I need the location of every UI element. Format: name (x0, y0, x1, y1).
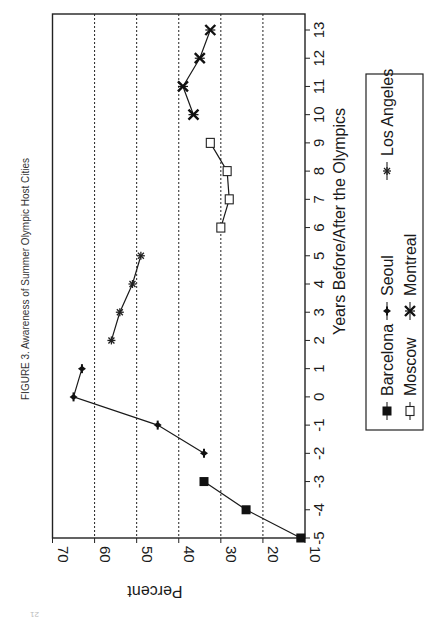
bowtie-x-marker (188, 110, 198, 120)
y-axis-ticks: 10203040506070 (53, 538, 325, 563)
y-tick-label: 30 (223, 546, 240, 563)
y-tick-label: 70 (55, 546, 72, 563)
legend-item-moscow: Moscow (402, 337, 419, 420)
plot-area: -5-4-3-2-1012345678910111213 10203040506… (53, 14, 328, 563)
filled-diamond-marker (200, 449, 208, 458)
asterisk-marker (128, 280, 136, 288)
x-tick-label: -3 (310, 475, 327, 488)
filled-diamond-marker (70, 392, 78, 401)
series-layer (70, 25, 306, 543)
legend: BarcelonaSeoulLos AngelesMoscowMontreal (366, 69, 423, 430)
figure-title: FIGURE 3. Awareness of Summer Olympic Ho… (20, 158, 31, 400)
open-square-marker (217, 223, 225, 232)
x-tick-label: -5 (310, 531, 327, 544)
x-tick-label: 2 (310, 336, 327, 344)
y-tick-label: 60 (97, 546, 114, 563)
bowtie-x-marker (178, 81, 188, 91)
gridlines (95, 14, 263, 538)
x-tick-label: 7 (310, 195, 327, 203)
asterisk-marker (107, 336, 115, 344)
x-tick-label: -2 (310, 447, 327, 460)
open-square-marker (406, 407, 414, 416)
asterisk-marker (116, 308, 124, 316)
legend-label: Moscow (402, 337, 419, 396)
legend-label: Seoul (379, 255, 396, 296)
x-tick-label: 5 (310, 252, 327, 260)
legend-label: Barcelona (379, 324, 396, 396)
filled-square-marker (242, 505, 251, 514)
x-tick-label: 3 (310, 308, 327, 316)
filled-diamond-marker (78, 364, 86, 373)
filled-diamond-marker (383, 307, 391, 316)
series-montreal (178, 25, 215, 120)
legend-item-barcelona: Barcelona (379, 324, 396, 420)
filled-diamond-marker (154, 421, 162, 430)
open-square-marker (225, 195, 233, 204)
filled-square-marker (296, 534, 305, 543)
legend-items: BarcelonaSeoulLos AngelesMoscowMontreal (379, 69, 419, 420)
x-tick-label: -4 (310, 503, 327, 516)
filled-square-marker (200, 477, 209, 486)
filled-square-marker (383, 407, 392, 416)
asterisk-marker (383, 167, 391, 175)
series-barcelona (200, 477, 306, 542)
legend-item-montreal: Montreal (402, 234, 419, 320)
asterisk-marker (137, 252, 145, 260)
series-los-angeles (107, 252, 144, 345)
x-tick-label: 8 (310, 167, 327, 175)
x-axis-label: Years Before/After the Olympics (331, 108, 348, 335)
x-tick-label: 0 (310, 393, 327, 401)
legend-label: Los Angeles (379, 69, 396, 156)
y-tick-label: 50 (139, 546, 156, 563)
bowtie-x-marker (205, 25, 215, 35)
legend-label: Montreal (402, 234, 419, 296)
y-tick-label: 10 (307, 546, 324, 563)
x-tick-label: -1 (310, 418, 327, 431)
x-tick-label: 4 (310, 280, 327, 288)
x-tick-label: 9 (310, 139, 327, 147)
page-mark: 21 (30, 610, 39, 619)
x-tick-label: 11 (310, 79, 327, 95)
legend-item-seoul: Seoul (379, 255, 396, 320)
y-tick-label: 20 (265, 546, 282, 563)
x-tick-label: 13 (310, 22, 327, 39)
x-tick-label: 10 (310, 106, 327, 123)
x-tick-label: 12 (310, 50, 327, 67)
y-tick-label: 40 (181, 546, 198, 563)
x-tick-label: 6 (310, 223, 327, 231)
bowtie-x-marker (195, 53, 205, 63)
x-axis-ticks: -5-4-3-2-1012345678910111213 (305, 22, 327, 545)
open-square-marker (223, 167, 231, 176)
open-square-marker (206, 138, 214, 147)
series-seoul (70, 364, 208, 458)
y-axis-label: Percent (127, 583, 183, 600)
rotated-line-chart: FIGURE 3. Awareness of Summer Olympic Ho… (0, 0, 444, 620)
x-tick-label: 1 (310, 364, 327, 372)
series-moscow (206, 138, 233, 232)
legend-item-los-angeles: Los Angeles (379, 69, 396, 180)
